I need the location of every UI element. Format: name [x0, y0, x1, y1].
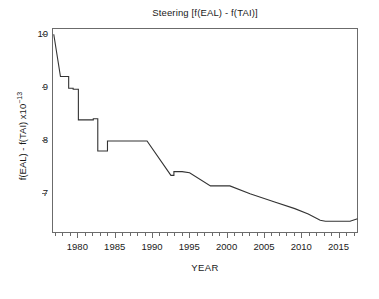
x-tick-minor — [324, 233, 325, 236]
data-series-line — [53, 29, 359, 234]
x-tick-label: 2015 — [319, 241, 359, 252]
x-tick-minor — [122, 233, 123, 236]
x-tick-major — [77, 233, 78, 238]
x-tick-major — [189, 233, 190, 238]
x-axis-tick-labels: 19801985199019952000200520102015 — [52, 241, 358, 255]
x-tick-minor — [174, 233, 175, 236]
y-tick-mark — [42, 140, 47, 141]
x-tick-minor — [331, 233, 332, 236]
x-tick-minor — [212, 233, 213, 236]
x-tick-label: 1990 — [132, 241, 172, 252]
x-tick-minor — [234, 233, 235, 236]
x-tick-minor — [107, 233, 108, 236]
x-tick-minor — [286, 233, 287, 236]
x-tick-minor — [55, 233, 56, 236]
x-axis-title: YEAR — [52, 262, 358, 273]
x-tick-major — [264, 233, 265, 238]
x-tick-minor — [85, 233, 86, 236]
x-tick-major — [152, 233, 153, 238]
x-tick-minor — [204, 233, 205, 236]
x-tick-minor — [219, 233, 220, 236]
x-tick-minor — [100, 233, 101, 236]
series-polyline — [54, 34, 358, 221]
y-axis-title: f(EAL) - f(TAI) x10−13 — [16, 56, 28, 216]
x-tick-minor — [316, 233, 317, 236]
chart-title: Steering [f(EAL) - f(TAI)] — [52, 7, 358, 18]
x-tick-minor — [197, 233, 198, 236]
plot-area — [52, 28, 358, 233]
x-tick-minor — [309, 233, 310, 236]
x-tick-label: 1985 — [95, 241, 135, 252]
y-axis-exponent: −13 — [16, 92, 23, 104]
x-tick-label: 2010 — [281, 241, 321, 252]
x-tick-major — [339, 233, 340, 238]
x-tick-minor — [130, 233, 131, 236]
y-axis-title-text: f(EAL) - f(TAI) x10 — [17, 104, 28, 180]
x-tick-minor — [62, 233, 63, 236]
x-tick-label: 1980 — [57, 241, 97, 252]
x-axis-ticks — [52, 233, 358, 239]
x-tick-minor — [257, 233, 258, 236]
x-tick-minor — [346, 233, 347, 236]
x-tick-minor — [145, 233, 146, 236]
x-tick-minor — [159, 233, 160, 236]
x-tick-minor — [70, 233, 71, 236]
x-tick-major — [227, 233, 228, 238]
y-tick-mark — [42, 34, 47, 35]
x-tick-minor — [167, 233, 168, 236]
x-tick-minor — [249, 233, 250, 236]
x-tick-minor — [354, 233, 355, 236]
chart-figure: Steering [f(EAL) - f(TAI)] 78910 f(EAL) … — [0, 0, 379, 299]
x-tick-major — [115, 233, 116, 238]
x-tick-label: 1995 — [169, 241, 209, 252]
x-tick-minor — [271, 233, 272, 236]
x-tick-minor — [92, 233, 93, 236]
x-tick-label: 2000 — [207, 241, 247, 252]
y-tick-mark — [42, 193, 47, 194]
x-tick-major — [301, 233, 302, 238]
x-tick-minor — [279, 233, 280, 236]
x-tick-label: 2005 — [244, 241, 284, 252]
x-tick-minor — [294, 233, 295, 236]
x-tick-minor — [182, 233, 183, 236]
x-tick-minor — [137, 233, 138, 236]
y-tick-mark — [42, 87, 47, 88]
x-tick-minor — [242, 233, 243, 236]
